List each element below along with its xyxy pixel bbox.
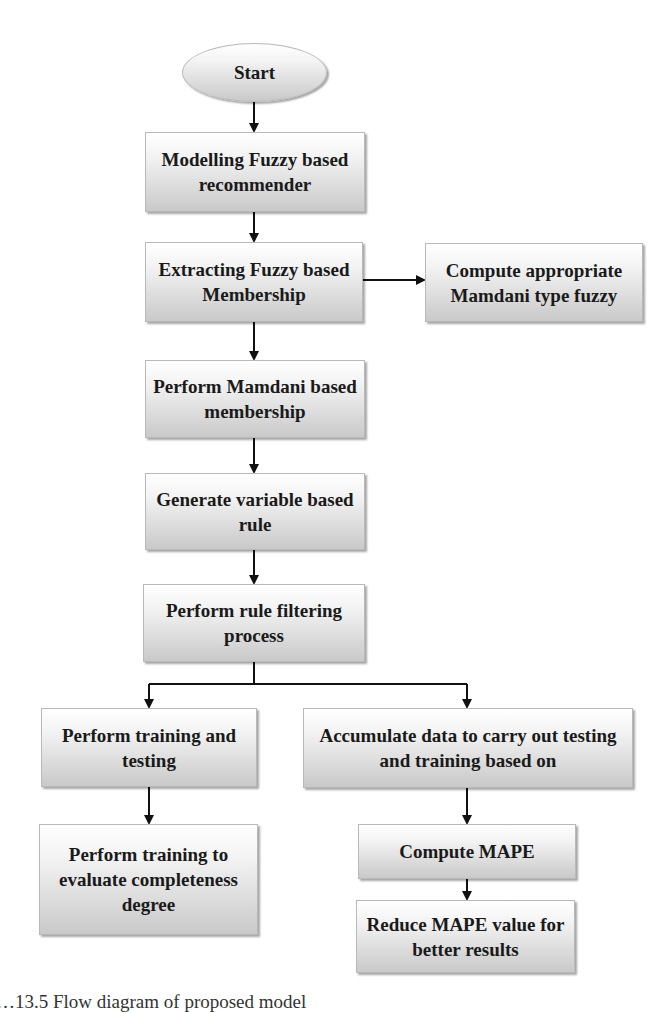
perform-mamdani-node: Perform Mamdani based membership: [145, 360, 365, 438]
completeness-node: Perform training to evaluate completenes…: [39, 824, 258, 935]
accumulate-data-node: Accumulate data to carry out testing and…: [303, 708, 633, 788]
modelling-fuzzy-node: Modelling Fuzzy based recommender: [145, 132, 365, 212]
node-label: Generate variable based rule: [152, 487, 358, 537]
compute-mamdani-node: Compute appropriate Mamdani type fuzzy: [425, 243, 643, 322]
node-label: Perform rule filtering process: [150, 598, 358, 648]
extracting-membership-node: Extracting Fuzzy based Membership: [145, 242, 363, 322]
rule-filtering-node: Perform rule filtering process: [143, 584, 365, 662]
node-label: Compute appropriate Mamdani type fuzzy: [432, 258, 636, 308]
node-label: Reduce MAPE value for better results: [363, 912, 568, 962]
training-testing-node: Perform training and testing: [41, 708, 257, 787]
node-label: Modelling Fuzzy based recommender: [152, 147, 358, 197]
start-label: Start: [234, 60, 275, 85]
reduce-mape-node: Reduce MAPE value for better results: [356, 900, 575, 973]
generate-rule-node: Generate variable based rule: [145, 473, 365, 550]
node-label: Compute MAPE: [399, 839, 535, 864]
node-label: Perform training and testing: [48, 723, 250, 773]
node-label: Accumulate data to carry out testing and…: [310, 723, 626, 773]
figure-caption: …13.5 Flow diagram of proposed model: [0, 991, 306, 1013]
start-node: Start: [182, 43, 327, 102]
node-label: Perform training to evaluate completenes…: [46, 842, 251, 917]
node-label: Extracting Fuzzy based Membership: [152, 257, 356, 307]
node-label: Perform Mamdani based membership: [152, 374, 358, 424]
compute-mape-node: Compute MAPE: [358, 824, 576, 879]
